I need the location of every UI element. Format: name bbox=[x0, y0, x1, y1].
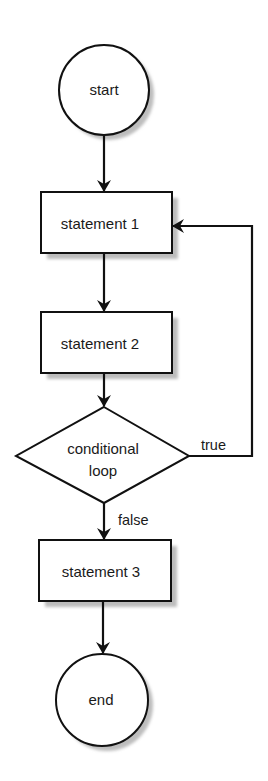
condition-node: conditional loop bbox=[16, 407, 189, 503]
false-label: false bbox=[118, 512, 149, 528]
edge-condition-to-statement1-true bbox=[173, 226, 252, 456]
start-node: start bbox=[59, 45, 149, 135]
flowchart-diagram: start statement 1 statement 2 conditiona… bbox=[0, 0, 268, 781]
statement1-node: statement 1 bbox=[41, 192, 172, 253]
end-label: end bbox=[88, 691, 113, 708]
statement3-node: statement 3 bbox=[39, 540, 171, 601]
condition-label-line1: conditional bbox=[67, 440, 139, 457]
start-label: start bbox=[89, 81, 119, 98]
statement2-node: statement 2 bbox=[41, 312, 172, 373]
condition-label-line2: loop bbox=[89, 462, 117, 479]
statement1-label: statement 1 bbox=[61, 215, 139, 232]
statement3-label: statement 3 bbox=[62, 563, 140, 580]
node-shadows bbox=[45, 50, 178, 751]
end-node: end bbox=[56, 654, 148, 746]
true-label: true bbox=[201, 437, 226, 453]
statement2-label: statement 2 bbox=[61, 335, 139, 352]
